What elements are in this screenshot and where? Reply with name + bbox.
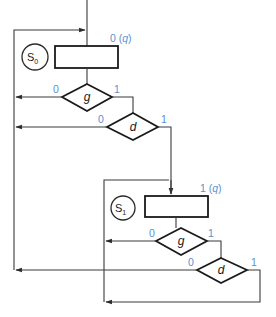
decision-s0-d-true: 1 [161, 113, 167, 125]
decision-s1-g-var: g [178, 234, 185, 248]
decision-s1-g-true: 1 [208, 227, 214, 239]
decision-s0-d-var: d [130, 120, 137, 134]
arrow-d1-to-s1 [158, 127, 171, 194]
connector [207, 241, 221, 258]
state-s1-block: S1 1 (q) g 0 1 d 0 1 [16, 180, 260, 302]
state-s1-output-label: 1 (q) [200, 182, 222, 194]
decision-s1-d-var: d [218, 263, 225, 277]
state-s0-circle [22, 44, 48, 70]
decision-s0-g-true: 1 [114, 83, 120, 95]
state-s0-block: S0 0 (q) g 0 1 d 0 1 [14, 0, 171, 270]
decision-s1-d-false: 0 [188, 256, 194, 268]
decision-s1-g-false: 0 [149, 227, 155, 239]
state-s1-box [145, 196, 208, 217]
connector [112, 97, 133, 113]
decision-s0-g-false: 0 [53, 83, 59, 95]
decision-s0-g-var: g [84, 90, 91, 104]
state-s0-output-label: 0 (q) [110, 32, 132, 44]
decision-s0-d-false: 0 [98, 113, 104, 125]
state-s0-box [55, 46, 118, 68]
asm-chart: S0 0 (q) g 0 1 d 0 1 S1 1 (q) g 0 1 [0, 0, 276, 317]
decision-s1-d-true: 1 [251, 256, 257, 268]
